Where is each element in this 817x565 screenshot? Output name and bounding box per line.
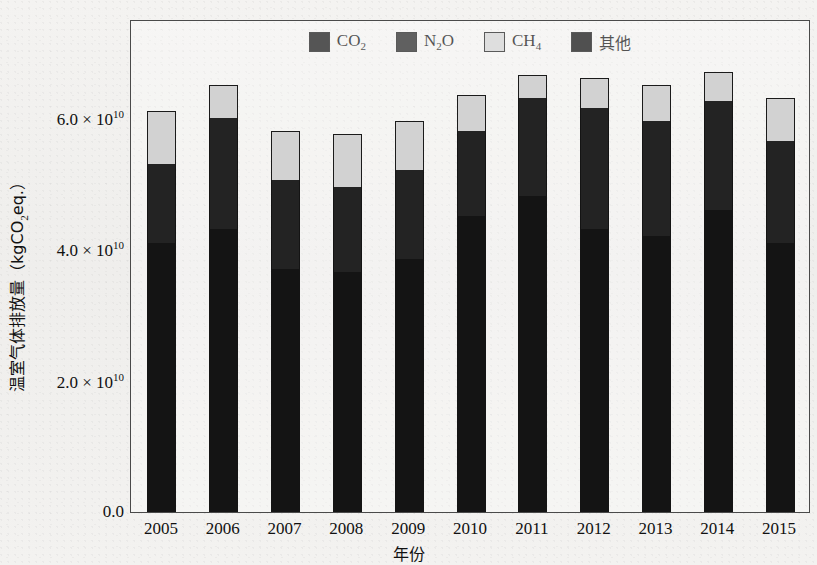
bars-layer [131, 21, 809, 512]
x-tick-label: 2005 [131, 519, 191, 539]
figure-canvas: CO2N2OCH4其他 0.02.0 × 10104.0 × 10106.0 ×… [0, 0, 817, 565]
bar-segment-CH4 [766, 98, 795, 141]
bar-segment-N2O [580, 108, 609, 230]
bar-segment-CH4 [457, 95, 486, 131]
bar-segment-CH4 [518, 75, 547, 98]
bar-2007 [271, 131, 300, 512]
bar-segment-CO2 [271, 269, 300, 512]
bar-segment-N2O [704, 101, 733, 209]
bar-segment-CO2 [704, 210, 733, 512]
bar-2010 [457, 95, 486, 512]
bar-segment-CO2 [333, 272, 362, 512]
bar-segment-N2O [271, 180, 300, 269]
bar-segment-CO2 [642, 236, 671, 512]
bar-segment-CH4 [271, 131, 300, 180]
x-axis-title: 年份 [0, 541, 817, 565]
bar-segment-CH4 [642, 85, 671, 121]
x-tick-label: 2010 [440, 519, 500, 539]
bar-segment-CH4 [704, 72, 733, 102]
bar-segment-CO2 [766, 243, 795, 513]
bar-2009 [395, 121, 424, 512]
x-tick-label: 2007 [255, 519, 315, 539]
x-tick-label: 2014 [687, 519, 747, 539]
bar-segment-N2O [209, 118, 238, 230]
bar-segment-CO2 [518, 196, 547, 512]
x-tick-label: 2015 [749, 519, 809, 539]
y-tick-label: 0.0 [0, 502, 132, 522]
bar-segment-CO2 [580, 229, 609, 512]
bar-2013 [642, 85, 671, 512]
x-tick-label: 2013 [625, 519, 685, 539]
x-tick-label: 2008 [316, 519, 376, 539]
bar-segment-CO2 [147, 243, 176, 513]
bar-segment-N2O [395, 170, 424, 259]
x-tick-label: 2011 [502, 519, 562, 539]
bar-segment-CO2 [395, 259, 424, 512]
bar-segment-N2O [518, 98, 547, 197]
bar-segment-N2O [333, 187, 362, 272]
bar-2015 [766, 98, 795, 512]
bar-segment-N2O [147, 164, 176, 243]
bar-2011 [518, 75, 547, 512]
bar-2008 [333, 134, 362, 512]
bar-segment-N2O [642, 121, 671, 236]
x-tick-label: 2009 [378, 519, 438, 539]
y-axis-title: 温室气体排放量（kgCO2eq.） [4, 103, 29, 463]
plot-area [130, 20, 810, 513]
bar-segment-CH4 [580, 78, 609, 108]
bar-segment-CO2 [457, 216, 486, 512]
bar-segment-CH4 [395, 121, 424, 170]
x-axis-title-text: 年份 [393, 545, 425, 564]
bar-segment-CH4 [209, 85, 238, 118]
bar-segment-N2O [766, 141, 795, 243]
bar-2012 [580, 78, 609, 512]
bar-segment-CH4 [147, 111, 176, 164]
bar-segment-CO2 [209, 229, 238, 512]
bar-segment-N2O [457, 131, 486, 216]
bar-2005 [147, 111, 176, 512]
bar-2014 [704, 72, 733, 512]
x-tick-label: 2012 [564, 519, 624, 539]
bar-2006 [209, 85, 238, 512]
x-tick-label: 2006 [193, 519, 253, 539]
bar-segment-CH4 [333, 134, 362, 187]
